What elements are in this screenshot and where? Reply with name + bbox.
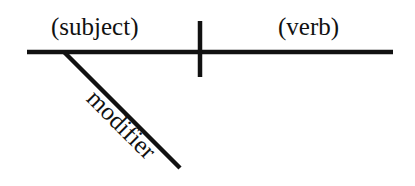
verb-label: (verb) <box>278 14 339 39</box>
subject-label: (subject) <box>51 14 138 39</box>
sentence-diagram: (subject) (verb) modifier <box>0 0 415 186</box>
